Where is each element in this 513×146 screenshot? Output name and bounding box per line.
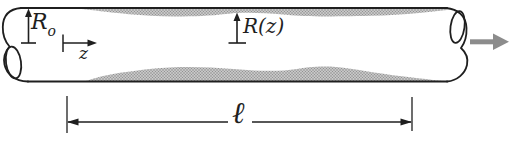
inlet-radius-subscript: o	[48, 23, 56, 39]
left-tube-break	[3, 8, 28, 82]
arrowhead-left-icon	[67, 119, 79, 126]
inlet-radius-symbol: R	[31, 9, 48, 34]
flow-direction-arrow-icon	[470, 34, 509, 51]
arrowhead-up-icon	[234, 13, 241, 22]
arrowhead-right-icon	[88, 40, 98, 47]
local-radius-label: R(z)	[243, 16, 284, 36]
inlet-radius-label: Ro	[31, 11, 56, 38]
arrowhead-right-icon	[401, 119, 413, 126]
tube-length-label: ℓ	[232, 98, 245, 128]
tube-flow-diagram: Ro z R(z) ℓ	[0, 0, 513, 146]
bottom-wall-deposit	[86, 66, 447, 81]
z-axis-label: z	[79, 45, 88, 62]
right-tube-break	[446, 8, 467, 82]
